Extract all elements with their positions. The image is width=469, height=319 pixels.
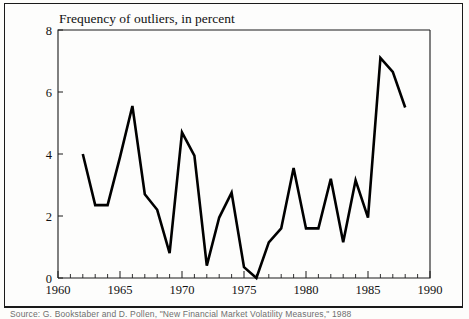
- x-tick-label: 1985: [356, 283, 381, 297]
- x-tick-label: 1970: [170, 283, 195, 297]
- plot-area: 02468 1960196519701975198019851990: [0, 0, 469, 319]
- series-line-frequency-of-outliers: [83, 58, 405, 278]
- figure-root: Frequency of outliers, in percent 02468 …: [0, 0, 469, 319]
- line-chart-svg: 02468 1960196519701975198019851990: [0, 0, 469, 319]
- caption-divider: [4, 307, 463, 308]
- x-tick-label: 1990: [418, 283, 443, 297]
- x-axis-tick-labels: 1960196519701975198019851990: [46, 283, 443, 297]
- data-series-group: [83, 58, 405, 278]
- x-tick-label: 1980: [294, 283, 319, 297]
- source-caption-text: Source: G. Bookstaber and D. Pollen, "Ne…: [10, 309, 460, 319]
- x-axis-ticks: [58, 271, 430, 278]
- x-tick-label: 1960: [46, 283, 71, 297]
- y-axis-tick-labels: 02468: [46, 24, 53, 286]
- y-tick-label: 8: [46, 24, 52, 38]
- y-tick-label: 4: [46, 148, 53, 162]
- x-tick-label: 1965: [108, 283, 133, 297]
- y-tick-label: 2: [46, 210, 52, 224]
- source-caption: Source: G. Bookstaber and D. Pollen, "Ne…: [10, 309, 460, 319]
- y-tick-label: 6: [46, 86, 52, 100]
- y-axis-ticks: [58, 30, 63, 278]
- x-tick-label: 1975: [232, 283, 257, 297]
